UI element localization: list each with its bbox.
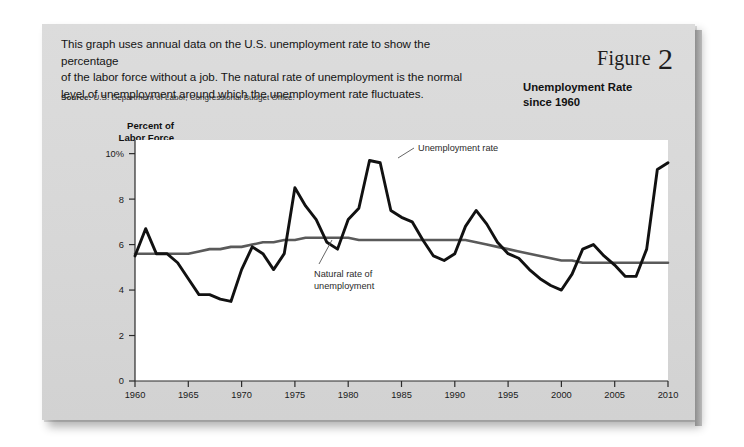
y-tick-label: 0 [119,376,124,386]
x-tick-label: 1960 [125,390,146,400]
x-tick-label: 2005 [604,390,625,400]
y-tick-label: 4 [119,285,124,295]
line-chart: 0246810% 1960196519701975198019851990199… [42,24,695,420]
x-tick-label: 1970 [231,390,252,400]
unemployment-rate-annotation: Unemployment rate [418,143,498,153]
x-tick-label: 2000 [551,390,572,400]
x-axis-ticks: 1960196519701975198019851990199520002005… [125,381,679,400]
x-tick-label: 1985 [391,390,412,400]
y-tick-label: 8 [119,195,124,205]
x-tick-label: 1975 [285,390,306,400]
x-tick-label: 1990 [444,390,465,400]
natural-rate-annotation-line-1: Natural rate of [314,269,373,279]
x-tick-label: 2010 [658,390,679,400]
natural-rate-annotation-line-2: unemployment [314,281,375,291]
x-tick-label: 1995 [498,390,519,400]
y-tick-label: 6 [119,240,124,250]
x-tick-label: 1965 [178,390,199,400]
y-tick-label: 10% [105,149,124,159]
chart-area: Percent of Labor Force 0246810% 19601965… [42,24,695,420]
y-axis-ticks: 0246810% [105,149,135,386]
plot-background [135,140,668,381]
x-tick-label: 1980 [338,390,359,400]
figure-card: This graph uses annual data on the U.S. … [42,24,695,420]
y-tick-label: 2 [119,331,124,341]
